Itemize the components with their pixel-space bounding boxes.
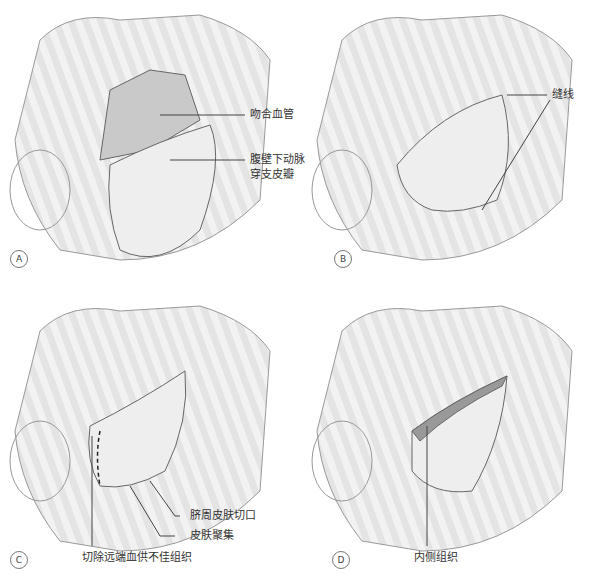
panel-a: 吻合血管 腹壁下动脉 穿支皮瓣 A (0, 0, 302, 291)
label-skin-gathering: 皮肤聚集 (190, 529, 234, 543)
panel-a-illustration (0, 0, 302, 291)
panel-d: 内侧组织 D (302, 291, 604, 582)
panel-d-illustration (302, 291, 604, 582)
panel-c: 脐周皮肤切口 皮肤聚集 切除远端血供不佳组织 C (0, 291, 302, 582)
panel-badge-a: A (10, 250, 28, 268)
label-excise-poorly-perfused: 切除远端血供不佳组织 (82, 551, 192, 565)
panel-b-illustration (302, 0, 604, 291)
label-diep-line1: 腹壁下动脉 (250, 153, 305, 167)
label-medial-tissue: 内侧组织 (414, 551, 458, 565)
panel-badge-c: C (10, 551, 28, 569)
label-diep-line2: 穿支皮瓣 (250, 168, 294, 182)
label-periumbilical-incision: 脐周皮肤切口 (190, 509, 256, 523)
label-suture: 缝线 (552, 88, 574, 102)
panel-badge-d: D (332, 551, 350, 569)
label-anastomosed-vessels: 吻合血管 (250, 108, 294, 122)
panel-c-illustration (0, 291, 302, 582)
panel-badge-b: B (334, 250, 352, 268)
panel-b: 缝线 B (302, 0, 604, 291)
